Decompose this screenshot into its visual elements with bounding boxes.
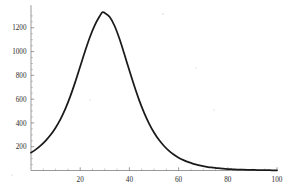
y-tick-label: 400: [16, 120, 27, 128]
chart-container: 20040060080010001200 20406080100: [0, 0, 285, 186]
y-axis-tick-labels: 20040060080010001200: [12, 24, 27, 151]
y-axis: [31, 5, 34, 170]
y-tick-label: 1200: [12, 24, 27, 32]
x-tick-label: 60: [175, 176, 183, 184]
x-axis-tick-labels: 20406080100: [77, 176, 283, 184]
distribution-curve: [31, 12, 277, 170]
x-tick-label: 40: [126, 176, 134, 184]
x-tick-label: 20: [77, 176, 85, 184]
x-tick-label: 100: [272, 176, 283, 184]
y-tick-label: 1000: [12, 48, 27, 56]
x-tick-label: 80: [224, 176, 232, 184]
distribution-line-chart: 20040060080010001200 20406080100: [0, 0, 285, 186]
y-tick-label: 200: [16, 143, 27, 151]
y-tick-label: 800: [16, 72, 27, 80]
y-tick-label: 600: [16, 96, 27, 104]
background-specks: [11, 13, 214, 176]
